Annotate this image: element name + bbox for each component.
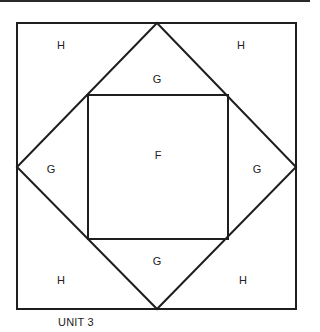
label-triangle-bottom: G [153,255,162,267]
label-triangle-right: G [253,163,262,175]
inner-square [88,95,228,239]
label-triangle-top: G [153,73,162,85]
label-corner-bottom-right: H [239,274,247,286]
label-triangle-left: G [47,163,56,175]
label-corner-bottom-left: H [57,274,65,286]
unit-caption: UNIT 3 [58,316,94,328]
label-center: F [155,149,162,161]
label-corner-top-right: H [237,39,245,51]
label-corner-top-left: H [57,39,65,51]
